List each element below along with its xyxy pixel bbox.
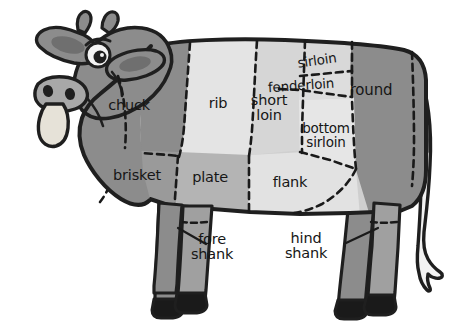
cut-label-fore-shank: fore shank <box>191 232 233 262</box>
cut-label-brisket: brisket <box>113 168 161 183</box>
cut-label-bottom-sirloin: bottom sirloin <box>302 121 350 149</box>
cow-illustration <box>0 0 466 336</box>
cut-label-hind-shank: hind shank <box>285 231 327 261</box>
cow-fore-leg-near-2 <box>154 203 182 293</box>
cut-label-plate: plate <box>192 170 228 185</box>
cut-label-rib: rib <box>209 96 228 111</box>
cut-label-chuck: chuck <box>108 98 150 113</box>
cut-label-short-loin: short loin <box>251 93 287 123</box>
cut-label-flank: flank <box>273 175 308 190</box>
beef-cuts-diagram: chuck rib short loin sirloin fenderloin … <box>0 0 466 336</box>
cut-label-round: round <box>350 83 393 99</box>
